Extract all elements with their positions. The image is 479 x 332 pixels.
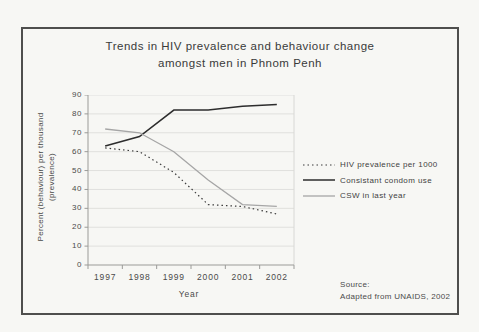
legend-label: Consistant condom use (340, 176, 432, 185)
x-tick-label: 2001 (226, 271, 260, 283)
scanned-chart-page: Trends in HIV prevalence and behaviour c… (0, 0, 479, 332)
legend-row: CSW in last year (303, 188, 438, 204)
legend-label: CSW in last year (340, 191, 406, 200)
legend-row: Consistant condom use (303, 173, 438, 189)
y-tick-label: 40 (52, 184, 82, 194)
x-tick-label: 1998 (123, 271, 157, 283)
x-tick-label: 2000 (191, 271, 225, 283)
series-line-csw-in-last-year (105, 129, 277, 206)
y-tick-label: 80 (52, 109, 82, 119)
legend-row: HIV prevalence per 1000 (303, 157, 438, 173)
chart-title-line1: Trends in HIV prevalence and behaviour c… (23, 38, 457, 55)
x-tick-label: 2002 (260, 271, 294, 283)
y-tick-label: 50 (52, 166, 82, 176)
x-axis-title: Year (159, 289, 219, 299)
source-text: Adapted from UNAIDS, 2002 (340, 291, 450, 303)
y-axis-title-line1: Percent (behaviour) per thousand (35, 92, 46, 262)
legend-swatch-dotted-line (303, 161, 335, 169)
y-tick-label: 60 (52, 147, 82, 157)
y-tick-label: 10 (52, 241, 82, 251)
y-tick-label: 90 (52, 90, 82, 100)
chart-title: Trends in HIV prevalence and behaviour c… (23, 38, 457, 72)
source-label: Source: (340, 279, 450, 291)
legend: HIV prevalence per 1000Consistant condom… (303, 157, 438, 204)
series-line-hiv-prevalence-per-1000 (105, 148, 277, 214)
legend-label: HIV prevalence per 1000 (340, 160, 438, 169)
legend-swatch-solid-line (303, 192, 335, 200)
x-tick-label: 1999 (157, 271, 191, 283)
series-line-consistant-condom-use (105, 104, 277, 146)
chart-title-line2: amongst men in Phnom Penh (23, 55, 457, 72)
chart-frame: Trends in HIV prevalence and behaviour c… (21, 27, 459, 315)
y-tick-label: 0 (52, 260, 82, 270)
plot-svg (83, 95, 295, 271)
y-tick-label: 30 (52, 203, 82, 213)
legend-swatch-solid-line (303, 176, 335, 184)
y-tick-label: 70 (52, 128, 82, 138)
y-tick-label: 20 (52, 222, 82, 232)
source-note: Source: Adapted from UNAIDS, 2002 (340, 279, 450, 303)
x-tick-label: 1997 (88, 271, 122, 283)
y-axis-tick-labels: 0102030405060708090 (52, 29, 82, 313)
